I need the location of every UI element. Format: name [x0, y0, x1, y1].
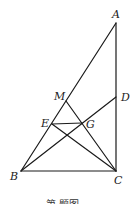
- segment-EC: [52, 124, 116, 171]
- label-point-A: A: [111, 8, 120, 21]
- figure-caption: 第 题图: [46, 198, 79, 204]
- segment-AB: [21, 23, 116, 171]
- segment-MC: [66, 101, 116, 171]
- label-point-D: D: [120, 91, 130, 104]
- label-point-B: B: [9, 170, 18, 183]
- label-point-C: C: [114, 174, 123, 187]
- label-point-G: G: [86, 118, 95, 131]
- label-point-E: E: [40, 117, 49, 130]
- label-point-M: M: [53, 90, 66, 103]
- geometry-figure: A D C B M E G 第 题图: [0, 0, 139, 204]
- segment-EG: [52, 123, 82, 124]
